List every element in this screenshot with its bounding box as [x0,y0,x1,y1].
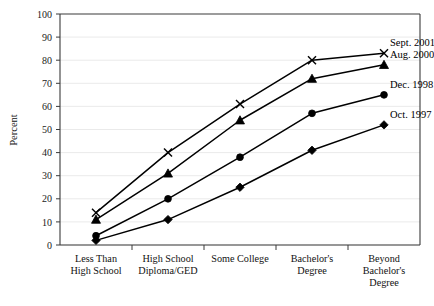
chart-container: 0102030405060708090100 Less ThanHigh Sch… [0,0,434,306]
y-tick-label: 10 [42,217,52,228]
data-point-marker [309,110,316,117]
x-category-label: Less Than [75,253,117,264]
x-category-label: High School [142,253,193,264]
data-point-marker [381,91,388,98]
x-category-label: Bachelor's [291,253,334,264]
data-point-marker [165,195,172,202]
x-category-label: Bachelor's [363,265,406,276]
y-tick-label: 20 [42,193,52,204]
y-tick-label: 30 [42,170,52,181]
x-category-label: Degree [297,265,327,276]
y-tick-label: 40 [42,147,52,158]
y-tick-label: 0 [47,240,52,251]
line-chart-figure: 0102030405060708090100 Less ThanHigh Sch… [0,0,434,306]
data-point-marker [237,154,244,161]
y-axis-title: Percent [8,114,19,146]
y-tick-label: 90 [42,32,52,43]
x-category-label: Diploma/GED [138,265,197,276]
x-category-label: High School [70,265,121,276]
series-label: Aug. 2000 [390,49,434,60]
x-category-label: Degree [369,277,399,288]
series-label: Dec. 1998 [390,79,433,90]
y-tick-label: 80 [42,55,52,66]
series-label: Oct. 1997 [390,109,431,120]
series-label: Sept. 2001 [390,37,434,48]
y-tick-label: 60 [42,101,52,112]
x-category-label: Some College [211,253,269,264]
y-tick-label: 50 [42,124,52,135]
x-category-label: Beyond [368,253,400,264]
y-tick-label: 70 [42,78,52,89]
y-tick-label: 100 [37,9,52,20]
